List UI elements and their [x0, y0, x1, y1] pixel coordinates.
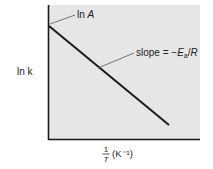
plot-area: [48, 5, 200, 139]
x-axis-frac-denominator: T: [104, 155, 110, 164]
slope-label: slope = −Ea/R: [136, 47, 198, 59]
x-axis-label: 1 T (K⁻¹): [103, 145, 133, 164]
y-axis-label: ln k: [17, 66, 34, 77]
arrhenius-chart: ln A slope = −Ea/R ln k 1 T (K⁻¹): [0, 0, 213, 169]
intercept-label: ln A: [77, 9, 95, 20]
x-axis-frac-numerator: 1: [104, 145, 109, 154]
x-axis-unit: (K⁻¹): [112, 148, 133, 159]
